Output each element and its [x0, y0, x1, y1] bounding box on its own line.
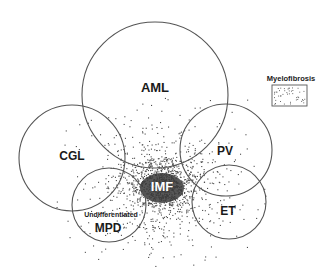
- label-mpd: MPD: [95, 221, 122, 235]
- circle-aml: [82, 22, 228, 168]
- circle-et: [192, 165, 266, 239]
- disease-labels: AMLCGLPVUndifferentiatedMPDET: [59, 80, 236, 235]
- label-cgl: CGL: [59, 149, 84, 163]
- label-aml: AML: [141, 80, 169, 95]
- label-pv: PV: [217, 144, 233, 158]
- imf-label: IMF: [151, 179, 173, 194]
- label-mpd-sub: Undifferentiated: [84, 211, 138, 218]
- myelofibrosis-venn-diagram: AMLCGLPVUndifferentiatedMPDET IMF Myelof…: [0, 0, 336, 268]
- legend: Myelofibrosis: [267, 74, 315, 106]
- label-et: ET: [220, 204, 236, 218]
- legend-label: Myelofibrosis: [267, 74, 315, 83]
